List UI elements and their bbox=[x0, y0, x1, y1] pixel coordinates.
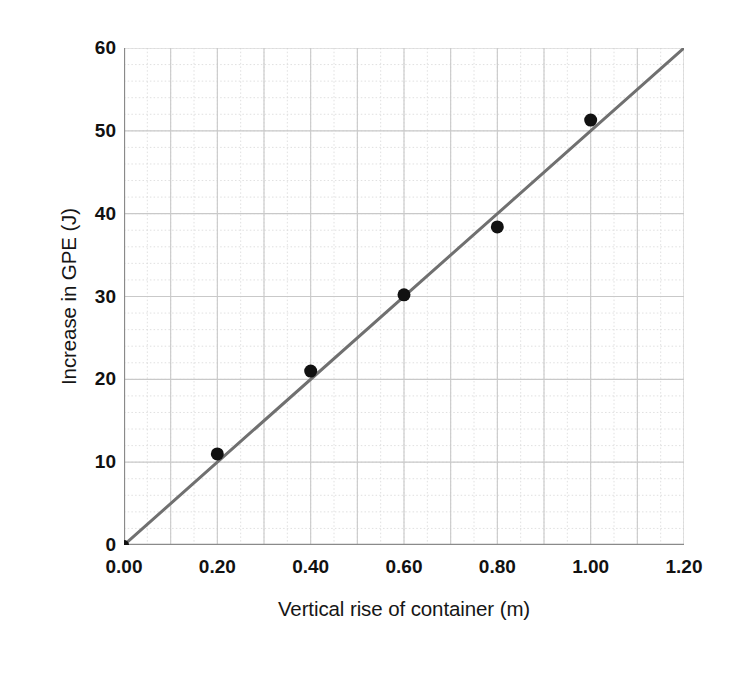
x-axis-title: Vertical rise of container (m) bbox=[124, 597, 684, 621]
y-axis-tick-label: 0 bbox=[62, 534, 116, 556]
y-axis-tick-label: 60 bbox=[62, 37, 116, 59]
y-axis-tick-label: 50 bbox=[62, 120, 116, 142]
x-axis-tick-label: 0.80 bbox=[452, 556, 542, 578]
data-point bbox=[398, 288, 411, 301]
x-axis-tick-label: 1.20 bbox=[639, 556, 729, 578]
data-point bbox=[584, 114, 597, 127]
y-axis-tick-label: 10 bbox=[62, 451, 116, 473]
data-point bbox=[491, 220, 504, 233]
data-point bbox=[211, 447, 224, 460]
plot-area bbox=[124, 48, 684, 545]
scatter-plot-svg bbox=[124, 48, 684, 545]
x-axis-tick-label: 0.60 bbox=[359, 556, 449, 578]
data-point bbox=[304, 365, 317, 378]
x-axis-tick-label: 0.40 bbox=[266, 556, 356, 578]
y-axis-tick-label: 20 bbox=[62, 368, 116, 390]
chart-figure: Increase in GPE (J) Vertical rise of con… bbox=[0, 0, 744, 677]
x-axis-tick-label: 0.00 bbox=[79, 556, 169, 578]
x-axis-tick-label: 1.00 bbox=[546, 556, 636, 578]
y-axis-tick-label: 40 bbox=[62, 203, 116, 225]
y-axis-tick-label: 30 bbox=[62, 286, 116, 308]
x-axis-tick-label: 0.20 bbox=[172, 556, 262, 578]
